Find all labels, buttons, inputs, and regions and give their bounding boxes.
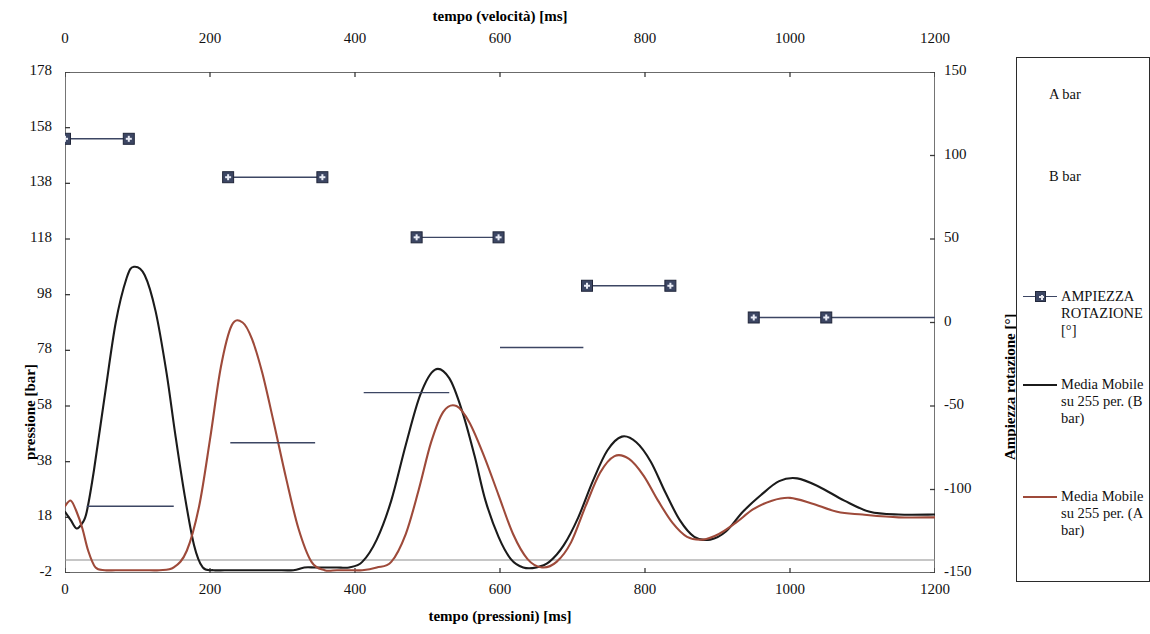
bottom-tick-label: 200 bbox=[182, 581, 238, 598]
legend-item[interactable]: Media Mobile su 255 per. (A bar) bbox=[1023, 488, 1149, 539]
legend-marker-swatch bbox=[1023, 288, 1057, 305]
chart-legend: A barB barAMPIEZZA ROTAZIONE [°]Media Mo… bbox=[1016, 57, 1150, 582]
legend-item[interactable]: AMPIEZZA ROTAZIONE [°] bbox=[1023, 288, 1149, 339]
marker-plus-v bbox=[753, 314, 755, 320]
top-tick-label: 200 bbox=[182, 30, 238, 47]
bottom-tick-label: 1000 bbox=[762, 581, 818, 598]
legend-item-label: Media Mobile su 255 per. (B bar) bbox=[1061, 376, 1149, 427]
bottom-tick-label: 1200 bbox=[907, 581, 963, 598]
rotation-marker bbox=[411, 232, 422, 243]
legend-item[interactable]: A bar bbox=[1049, 86, 1150, 103]
bottom-tick-label: 600 bbox=[472, 581, 528, 598]
right-tick-label: 0 bbox=[944, 313, 990, 330]
right-tick-label: -150 bbox=[944, 563, 990, 580]
top-tick-label: 600 bbox=[472, 30, 528, 47]
series-line-a-bar bbox=[65, 320, 935, 571]
left-axis-title: pressione [bar] bbox=[22, 364, 39, 460]
top-axis-title: tempo (velocità) [ms] bbox=[0, 8, 1000, 25]
marker-plus-v bbox=[321, 174, 323, 180]
left-tick-label: 118 bbox=[0, 229, 52, 246]
left-tick-label: 98 bbox=[0, 285, 52, 302]
left-tick-label: -2 bbox=[0, 563, 52, 580]
rotation-marker bbox=[223, 172, 234, 183]
right-tick-label: -100 bbox=[944, 480, 990, 497]
left-tick-label: 18 bbox=[0, 507, 52, 524]
top-tick-label: 1000 bbox=[762, 30, 818, 47]
marker-plus-v bbox=[416, 234, 418, 240]
right-tick-label: 50 bbox=[944, 229, 990, 246]
bottom-tick-label: 800 bbox=[617, 581, 673, 598]
marker-plus-v bbox=[65, 136, 66, 142]
marker-plus-v bbox=[586, 283, 588, 289]
legend-item-label: AMPIEZZA ROTAZIONE [°] bbox=[1061, 288, 1149, 339]
rotation-marker bbox=[317, 172, 328, 183]
plot-area bbox=[65, 72, 935, 573]
marker-plus-v bbox=[825, 314, 827, 320]
marker-plus-v bbox=[227, 174, 229, 180]
legend-line-swatch bbox=[1023, 496, 1057, 498]
top-tick-label: 800 bbox=[617, 30, 673, 47]
rotation-marker bbox=[665, 280, 676, 291]
legend-item[interactable]: B bar bbox=[1049, 168, 1150, 185]
right-tick-label: 100 bbox=[944, 146, 990, 163]
rotation-marker bbox=[748, 312, 759, 323]
right-tick-label: -50 bbox=[944, 396, 990, 413]
rotation-marker bbox=[493, 232, 504, 243]
legend-line-swatch bbox=[1023, 384, 1057, 386]
legend-item[interactable]: Media Mobile su 255 per. (B bar) bbox=[1023, 376, 1149, 427]
legend-item-label: A bar bbox=[1049, 86, 1081, 103]
rotation-marker bbox=[821, 312, 832, 323]
rotation-marker bbox=[582, 280, 593, 291]
left-tick-label: 158 bbox=[0, 118, 52, 135]
bottom-tick-label: 400 bbox=[327, 581, 383, 598]
top-tick-label: 0 bbox=[37, 30, 93, 47]
top-tick-label: 400 bbox=[327, 30, 383, 47]
bottom-axis-title: tempo (pressioni) [ms] bbox=[0, 608, 1000, 625]
right-tick-label: 150 bbox=[944, 62, 990, 79]
legend-item-label: B bar bbox=[1049, 168, 1081, 185]
left-tick-label: 78 bbox=[0, 340, 52, 357]
chart-figure: tempo (velocità) [ms] 020040060080010001… bbox=[0, 0, 1150, 634]
marker-plus-v bbox=[669, 283, 671, 289]
marker-plus-v bbox=[498, 234, 500, 240]
bottom-tick-label: 0 bbox=[37, 581, 93, 598]
top-tick-label: 1200 bbox=[907, 30, 963, 47]
rotation-marker bbox=[123, 133, 134, 144]
left-tick-label: 178 bbox=[0, 62, 52, 79]
series-canvas bbox=[65, 72, 935, 573]
marker-plus-v bbox=[128, 136, 130, 142]
left-tick-label: 138 bbox=[0, 173, 52, 190]
legend-item-label: Media Mobile su 255 per. (A bar) bbox=[1061, 488, 1149, 539]
rotation-marker bbox=[65, 133, 71, 144]
